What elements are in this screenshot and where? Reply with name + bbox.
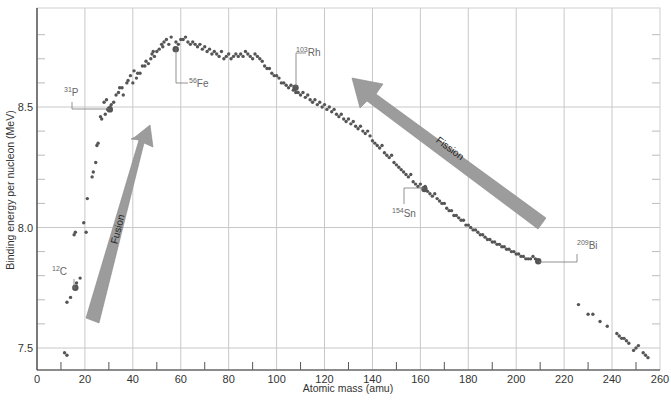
data-point <box>90 175 93 178</box>
data-point <box>110 103 113 106</box>
y-axis-title: Binding energy per nucleon (MeV) <box>4 110 16 269</box>
data-point <box>347 117 350 120</box>
data-point <box>433 192 436 195</box>
data-point <box>349 122 352 125</box>
data-point <box>385 154 388 157</box>
data-point <box>263 64 266 67</box>
isotope-label: 154Sn <box>392 207 416 219</box>
data-point <box>392 161 395 164</box>
data-point <box>404 173 407 176</box>
isotope-point <box>535 258 541 264</box>
data-point <box>157 47 160 50</box>
data-point <box>65 301 68 304</box>
data-point <box>318 100 321 103</box>
data-point <box>270 72 273 75</box>
data-point <box>149 57 152 60</box>
data-point <box>634 346 637 349</box>
data-point <box>277 76 280 79</box>
data-point <box>203 45 206 48</box>
isotope-point <box>421 186 427 192</box>
data-point <box>330 110 333 113</box>
data-point <box>99 115 102 118</box>
data-point <box>144 60 147 63</box>
data-point <box>646 356 649 359</box>
data-point <box>196 45 199 48</box>
data-point <box>246 52 249 55</box>
data-point <box>359 125 362 128</box>
data-point <box>117 91 120 94</box>
data-point <box>304 96 307 99</box>
data-point <box>361 129 364 132</box>
data-point <box>311 100 314 103</box>
data-point <box>457 216 460 219</box>
x-tick-label: 80 <box>223 373 235 385</box>
data-point <box>577 303 580 306</box>
data-point <box>517 252 520 255</box>
data-point <box>249 55 252 58</box>
data-point <box>78 276 81 279</box>
data-point <box>189 43 192 46</box>
data-point <box>586 313 589 316</box>
data-point <box>354 125 357 128</box>
data-point <box>186 40 189 43</box>
data-point <box>512 250 515 253</box>
data-point <box>198 43 201 46</box>
data-point <box>94 161 97 164</box>
data-point <box>637 344 640 347</box>
binding-energy-chart: 020406080100120140160180200220240260 7.5… <box>0 0 671 400</box>
data-point <box>371 139 374 142</box>
data-point <box>618 334 621 337</box>
isotope-leader-line <box>404 188 424 204</box>
data-point <box>390 154 393 157</box>
data-point <box>114 93 117 96</box>
data-point <box>316 103 319 106</box>
data-point <box>162 40 165 43</box>
y-tick-labels: 7.58.08.5 <box>18 101 33 354</box>
data-point <box>167 43 170 46</box>
data-point <box>632 349 635 352</box>
data-point <box>481 233 484 236</box>
data-point <box>383 151 386 154</box>
data-point <box>598 320 601 323</box>
data-point <box>86 197 89 200</box>
data-point <box>155 50 158 53</box>
fusion-label: Fusion <box>109 213 127 245</box>
data-point <box>332 108 335 111</box>
data-point <box>313 98 316 101</box>
x-tick-label: 60 <box>175 373 187 385</box>
data-point <box>409 173 412 176</box>
data-point <box>462 219 465 222</box>
data-point <box>153 55 156 58</box>
data-point <box>380 144 383 147</box>
data-point <box>229 57 232 60</box>
data-point <box>325 108 328 111</box>
data-point <box>169 35 172 38</box>
data-point <box>82 221 85 224</box>
data-point <box>174 40 177 43</box>
data-point <box>352 120 355 123</box>
data-point <box>407 175 410 178</box>
data-point <box>225 55 228 58</box>
data-point <box>450 209 453 212</box>
data-point <box>368 134 371 137</box>
data-point <box>217 55 220 58</box>
data-point <box>476 231 479 234</box>
y-tick-label: 8.0 <box>18 222 33 234</box>
data-point <box>222 57 225 60</box>
data-point <box>138 72 141 75</box>
isotope-leader-line <box>176 48 188 83</box>
data-point <box>210 52 213 55</box>
data-point <box>126 79 129 82</box>
y-tick-label: 7.5 <box>18 342 33 354</box>
data-point <box>177 43 180 46</box>
data-point <box>606 325 609 328</box>
data-point <box>498 243 501 246</box>
data-point <box>287 86 290 89</box>
data-point <box>419 182 422 185</box>
data-point <box>414 182 417 185</box>
data-point <box>220 50 223 53</box>
x-axis-title: Atomic mass (amu) <box>303 382 393 394</box>
data-point <box>143 64 146 67</box>
data-point <box>131 81 134 84</box>
data-point <box>397 166 400 169</box>
